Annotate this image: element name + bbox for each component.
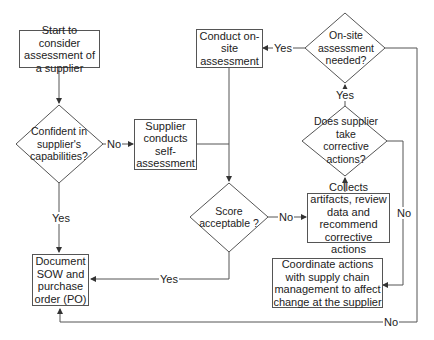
onsite-no-label: No: [383, 316, 399, 328]
document-sow-node: Document SOW and purchase order (PO): [32, 254, 89, 306]
confident-decision: Confident in supplier's capabilities?: [28, 126, 90, 162]
score-decision: Score acceptable ?: [198, 204, 260, 230]
corrective-yes-label: Yes: [335, 89, 355, 101]
collect-artifacts-node: Collects artifacts, review data and reco…: [307, 193, 390, 243]
onsite-yes-label: Yes: [273, 42, 293, 54]
start-node: Start to consider assessment of a suppli…: [19, 30, 100, 68]
confident-no-label: No: [106, 138, 122, 150]
onsite-assessment-node: Conduct on-site assessment: [196, 29, 263, 68]
self-assessment-node: Supplier conducts self-assessment: [134, 119, 197, 170]
coordinate-actions-node: Coordinate actions with supply chain man…: [272, 258, 383, 308]
corrective-no-label: No: [396, 207, 412, 219]
confident-yes-label: Yes: [51, 212, 71, 224]
score-yes-label: Yes: [159, 273, 179, 285]
onsite-needed-decision: On-site assessment needed?: [318, 30, 374, 66]
corrective-actions-decision: Does supplier take corrective actions?: [312, 117, 380, 163]
score-no-label: No: [278, 211, 294, 223]
